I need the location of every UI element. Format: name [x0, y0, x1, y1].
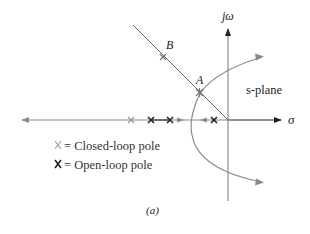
s-plane-label: s-plane — [246, 83, 283, 97]
real-axis-label: σ — [288, 112, 295, 127]
root-locus-diagram: B A jω σ s-plane = Closed-loop pole = Op… — [0, 0, 310, 234]
imag-axis-label: jω — [220, 9, 234, 23]
locus-direction-arrow-right — [177, 118, 184, 123]
locus-direction-arrow-left — [200, 118, 207, 123]
point-a-label: A — [195, 73, 204, 87]
closed-loop-pole-legend-text: = Closed-loop pole — [64, 139, 160, 153]
figure-caption: (a) — [146, 204, 159, 217]
damping-ratio-line — [133, 25, 228, 120]
locus-arrow-bottom — [255, 179, 264, 186]
point-a-marker — [196, 88, 203, 97]
open-loop-pole-legend-text: = Open-loop pole — [64, 158, 153, 172]
open-loop-pole-legend-icon — [55, 160, 61, 168]
point-b-label: B — [166, 38, 174, 52]
closed-loop-pole-legend-icon — [55, 141, 61, 149]
locus-arrow-top — [255, 54, 264, 61]
legend: = Closed-loop pole = Open-loop pole — [55, 139, 160, 172]
